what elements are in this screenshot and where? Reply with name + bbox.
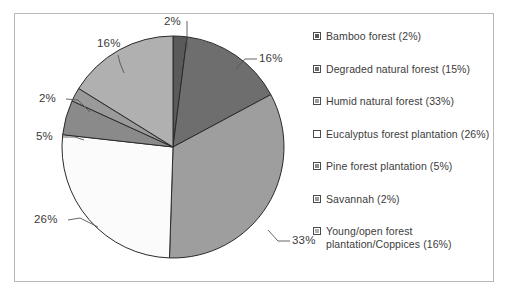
pie-label-savannah: 2% — [39, 92, 56, 104]
pie-label-pine: 5% — [36, 130, 53, 142]
legend-item-label: Eucalyptus forest plantation (26%) — [326, 128, 489, 141]
legend-item-label: Bamboo forest (2%) — [326, 30, 421, 43]
legend-swatch-icon — [313, 195, 321, 203]
pie-label-young: 16% — [97, 37, 121, 49]
legend-item[interactable]: Young/open forest plantation/Coppices (1… — [313, 225, 499, 251]
pie-label-bamboo: 2% — [164, 15, 181, 27]
leader-line-humid — [268, 230, 290, 241]
chart-legend: Bamboo forest (2%)Degraded natural fores… — [313, 30, 499, 271]
legend-item-label: Young/open forest plantation/Coppices (1… — [326, 225, 498, 251]
legend-swatch-icon — [313, 162, 321, 170]
legend-item[interactable]: Savannah (2%) — [313, 193, 499, 206]
legend-item[interactable]: Humid natural forest (33%) — [313, 95, 499, 108]
legend-item[interactable]: Degraded natural forest (15%) — [313, 63, 499, 76]
legend-item-label: Pine forest plantation (5%) — [326, 160, 452, 173]
legend-swatch-icon — [313, 32, 321, 40]
figure-canvas: 2% 16% 33% 26% 5% 2% 16% Bamboo forest (… — [0, 0, 509, 299]
pie-slice[interactable] — [62, 135, 173, 258]
legend-swatch-icon — [313, 130, 321, 138]
legend-swatch-icon — [313, 65, 321, 73]
legend-item[interactable]: Bamboo forest (2%) — [313, 30, 499, 43]
pie-label-degraded: 16% — [259, 52, 283, 64]
legend-item[interactable]: Eucalyptus forest plantation (26%) — [313, 128, 499, 141]
legend-swatch-icon — [313, 97, 321, 105]
pie-chart-area: 2% 16% 33% 26% 5% 2% 16% — [14, 13, 304, 283]
legend-item[interactable]: Pine forest plantation (5%) — [313, 160, 499, 173]
legend-item-label: Humid natural forest (33%) — [326, 95, 454, 108]
legend-item-label: Degraded natural forest (15%) — [326, 63, 470, 76]
pie-slice-group — [62, 36, 284, 258]
legend-item-label: Savannah (2%) — [326, 193, 400, 206]
legend-swatch-icon — [313, 227, 321, 235]
pie-label-eucalyptus: 26% — [34, 213, 58, 225]
